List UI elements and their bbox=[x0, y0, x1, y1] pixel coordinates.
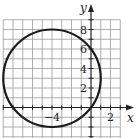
x-axis-arrow bbox=[126, 105, 134, 111]
y-tick-label: 4 bbox=[80, 63, 87, 76]
x-tick-label: 2 bbox=[107, 111, 114, 124]
y-tick-label: 6 bbox=[80, 43, 87, 56]
x-axis-label: x bbox=[127, 111, 134, 125]
y-axis-label: y bbox=[79, 1, 87, 15]
grid bbox=[3, 20, 120, 138]
x-tick-label: −4 bbox=[44, 111, 60, 124]
y-tick-label: 8 bbox=[80, 24, 87, 37]
y-axis-arrow bbox=[88, 4, 94, 12]
y-tick-label: 2 bbox=[80, 82, 87, 95]
chart: −422468xy bbox=[0, 0, 137, 138]
